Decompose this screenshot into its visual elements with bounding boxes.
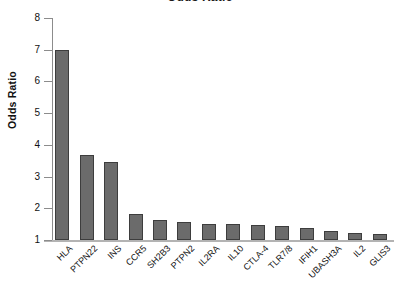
y-axis-tick-label-text: 8: [10, 13, 40, 23]
chart-figure: Odds Ratio Odds Ratio 12345678 HLAPTPN22…: [0, 0, 400, 304]
bar: [153, 220, 167, 240]
y-axis-tick-label-text: 5: [10, 108, 40, 118]
y-axis-tick: [44, 145, 52, 146]
chart-title: Odds Ratio: [0, 0, 400, 1]
y-axis-tick: [44, 81, 52, 82]
y-axis-tick: [44, 208, 52, 209]
y-axis-tick-label: 1: [8, 235, 40, 245]
y-axis-tick: [44, 240, 52, 241]
bar: [129, 214, 143, 240]
y-axis-tick-label-text: 2: [10, 203, 40, 213]
y-axis-tick-label: 5: [8, 108, 40, 118]
y-axis-tick-label-text: 1: [10, 235, 40, 245]
bar: [55, 50, 69, 240]
y-axis-tick-label: 6: [8, 76, 40, 86]
y-axis-tick: [44, 18, 52, 19]
y-axis-tick: [44, 177, 52, 178]
bar: [348, 233, 362, 240]
y-axis-tick-label: 2: [8, 203, 40, 213]
bar: [177, 222, 191, 240]
plot-area: [52, 18, 394, 240]
y-axis-tick-label-text: 6: [10, 76, 40, 86]
bar: [226, 224, 240, 240]
y-axis-tick: [44, 113, 52, 114]
bar: [104, 162, 118, 240]
bar: [251, 225, 265, 240]
y-axis-tick-label: 3: [8, 172, 40, 182]
bar: [324, 231, 338, 240]
bar: [300, 228, 314, 240]
x-axis-line: [44, 240, 394, 242]
y-axis-tick-label-text: 3: [10, 172, 40, 182]
y-axis-tick-label: 4: [8, 140, 40, 150]
y-axis-tick-label-text: 7: [10, 45, 40, 55]
bar: [373, 234, 387, 240]
y-axis-tick-label: 8: [8, 13, 40, 23]
bar: [275, 226, 289, 240]
bar: [80, 155, 94, 240]
y-axis-tick-label-text: 4: [10, 140, 40, 150]
y-axis-title: Odds Ratio: [6, 60, 18, 140]
y-axis-tick: [44, 50, 52, 51]
y-axis-tick-label: 7: [8, 45, 40, 55]
bar: [202, 224, 216, 240]
